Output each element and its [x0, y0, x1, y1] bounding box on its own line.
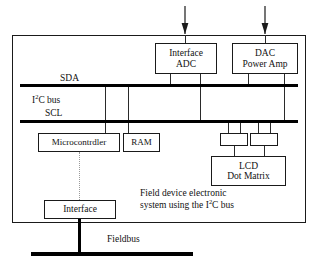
adc-input-arrow-icon [179, 4, 191, 38]
dac-input-arrow-icon [259, 4, 271, 38]
microcontroller-interface-dotted-link [79, 152, 80, 200]
ram-block[interactable]: RAM [123, 133, 160, 152]
scl-label: SCL [45, 108, 62, 118]
wire-lcd-driver-left-out [234, 146, 235, 156]
dac-label-line2: Power Amp [242, 59, 287, 69]
interface-adc-block[interactable]: Interface ADC [155, 43, 217, 74]
wire-microcontroller-sda [105, 86, 106, 133]
diagram-caption: Field device electronic system using the… [140, 188, 234, 212]
wire-adc-scl [200, 74, 201, 122]
fieldbus-interface-block[interactable]: Interface [44, 200, 116, 219]
sda-label: SDA [60, 73, 79, 83]
dac-power-amp-block[interactable]: DAC Power Amp [232, 43, 298, 74]
fieldbus-drop-wire [78, 219, 81, 254]
wire-lcd-driver-left-b [240, 122, 241, 133]
caption-line-1: Field device electronic [140, 188, 234, 200]
lcd-driver-right-block[interactable] [250, 133, 278, 146]
wire-lcd-driver-right-a [258, 122, 259, 133]
wire-lcd-driver-left-a [228, 122, 229, 133]
ram-label: RAM [131, 138, 152, 148]
interface-adc-label-line2: ADC [176, 59, 196, 69]
dac-label-line1: DAC [255, 48, 275, 58]
caption-line-2: system using the I2C bus [140, 200, 234, 212]
interface-adc-label-line1: Interface [169, 48, 203, 58]
microcontroller-label: Microcontrdler [52, 138, 106, 148]
fieldbus-label: Fieldbus [107, 234, 140, 244]
scl-bus-line [20, 120, 298, 123]
lcd-driver-left-block[interactable] [220, 133, 248, 146]
wire-lcd-driver-right-b [270, 122, 271, 133]
lcd-label-line1: LCD [239, 161, 258, 171]
wire-ram-sda [128, 86, 129, 133]
fieldbus-line [31, 252, 193, 256]
fieldbus-interface-label: Interface [63, 204, 97, 214]
sda-bus-line [20, 84, 298, 87]
lcd-label-line2: Dot Matrix [227, 171, 269, 181]
diagram-canvas: Interface ADC DAC Power Amp SDA I2C bus … [0, 0, 319, 270]
microcontroller-block[interactable]: Microcontrdler [38, 133, 120, 152]
wire-dac-scl [284, 74, 285, 122]
wire-lcd-driver-right-out [264, 146, 265, 156]
lcd-dot-matrix-block[interactable]: LCD Dot Matrix [211, 156, 286, 186]
i2c-bus-label: I2C bus [32, 95, 60, 105]
